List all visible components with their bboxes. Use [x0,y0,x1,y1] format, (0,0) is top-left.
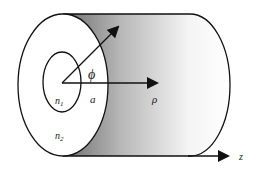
fiber-diagram: ϕ a ρ n1 n2 z [0,0,260,173]
phi-label: ϕ [88,67,95,82]
core-index-sub: 1 [60,100,64,108]
diagram-canvas: ϕ a ρ n1 n2 z [0,0,260,173]
cladding-index-sub: 2 [60,135,64,143]
rho-label: ρ [151,93,157,105]
z-axis-label: z [238,151,243,162]
core-radius-label: a [90,93,96,105]
